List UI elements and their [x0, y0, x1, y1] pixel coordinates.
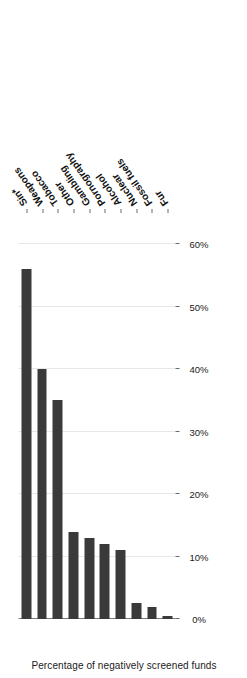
bar-row — [162, 213, 172, 619]
bar-row — [131, 213, 141, 619]
category-tick — [73, 209, 74, 213]
category-tick — [136, 209, 137, 213]
bar-fossil-fuels[interactable] — [147, 607, 157, 619]
bars-series — [18, 213, 175, 619]
bar-row — [68, 213, 78, 619]
bar-row — [52, 213, 62, 619]
bar-tobacco[interactable] — [52, 400, 62, 619]
bar-chart-figure: Percentage of negatively screened funds … — [0, 0, 247, 678]
bar-row — [99, 213, 109, 619]
bar-alcohol[interactable] — [115, 550, 125, 619]
tick-label-60%: 60% — [179, 239, 219, 250]
category-tick — [120, 209, 121, 213]
category-tick — [104, 209, 105, 213]
bar-weapons[interactable] — [37, 369, 47, 619]
tick-label-30%: 30% — [179, 426, 219, 437]
bar-row — [115, 213, 125, 619]
bar-sin[interactable] — [21, 269, 31, 619]
category-tick — [151, 209, 152, 213]
category-label-fur: Fur — [152, 189, 170, 209]
bar-row — [84, 213, 94, 619]
rotated-figure-container: Percentage of negatively screened funds … — [0, 0, 247, 678]
plot-area — [18, 213, 175, 619]
category-tick — [57, 209, 58, 213]
category-tick — [167, 209, 168, 213]
tick-label-10%: 10% — [179, 551, 219, 562]
bar-other[interactable] — [68, 532, 78, 619]
bar-gambling[interactable] — [84, 538, 94, 619]
tick-label-50%: 50% — [179, 301, 219, 312]
bar-row — [147, 213, 157, 619]
bar-row — [21, 213, 31, 619]
value-axis-title: Percentage of negatively screened funds — [0, 652, 247, 678]
tick-label-40%: 40% — [179, 364, 219, 375]
tick-label-20%: 20% — [179, 489, 219, 500]
category-tick — [26, 209, 27, 213]
category-tick — [89, 209, 90, 213]
bar-nuclear[interactable] — [131, 603, 141, 619]
bar-row — [37, 213, 47, 619]
category-tick — [42, 209, 43, 213]
bar-pornography[interactable] — [99, 544, 109, 619]
tick-label-0%: 0% — [179, 614, 219, 625]
bar-fur[interactable] — [162, 616, 172, 619]
